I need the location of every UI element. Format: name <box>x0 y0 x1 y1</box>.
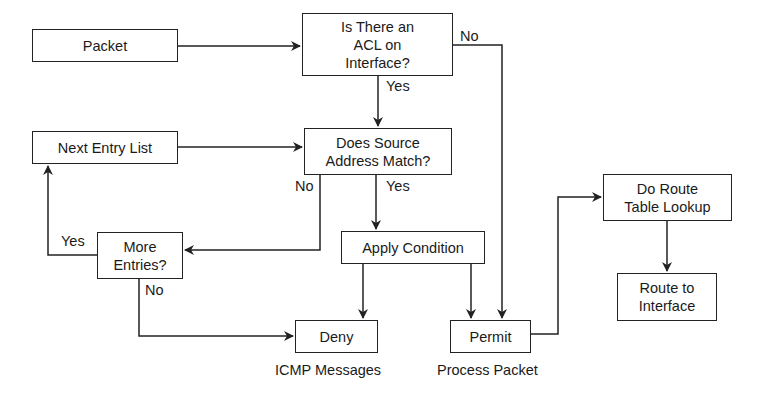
source-yes-label: Yes <box>386 178 410 194</box>
deny-caption: ICMP Messages <box>275 362 381 378</box>
more-yes-label: Yes <box>61 233 85 249</box>
apply-condition-node: Apply Condition <box>341 231 485 264</box>
permit-caption: Process Packet <box>437 362 538 378</box>
source-no-label: No <box>295 178 314 194</box>
route-interface-node: Route to Interface <box>617 273 717 321</box>
route-lookup-node: Do Route Table Lookup <box>603 174 732 221</box>
more-entries-decision: More Entries? <box>97 232 183 279</box>
acl-no-label: No <box>460 28 479 44</box>
source-match-decision: Does Source Address Match? <box>304 128 452 175</box>
packet-node: Packet <box>32 29 178 62</box>
acl-check-decision: Is There an ACL on Interface? <box>302 13 453 76</box>
acl-yes-label: Yes <box>386 78 410 94</box>
more-no-label: No <box>145 282 164 298</box>
next-entry-node: Next Entry List <box>32 131 178 164</box>
permit-node: Permit <box>450 320 531 353</box>
deny-node: Deny <box>295 320 378 353</box>
